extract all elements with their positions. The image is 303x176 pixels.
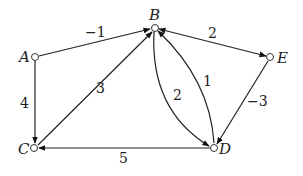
node-e: [267, 54, 274, 61]
weight-d-c: 5: [119, 150, 128, 166]
edge-c-b: [38, 32, 152, 145]
node-label-a: A: [17, 48, 30, 66]
node-d: [211, 145, 218, 152]
node-label-c: C: [18, 140, 30, 158]
weight-e-d: −3: [247, 93, 268, 109]
node-c: [31, 145, 38, 152]
weight-d-b: 1: [203, 73, 212, 89]
node-label-e: E: [276, 49, 288, 67]
node-b: [152, 25, 159, 32]
weight-b-d: 2: [173, 87, 182, 103]
node-label-b: B: [148, 6, 160, 24]
weight-a-c: 4: [20, 95, 29, 111]
weight-e-b: 2: [208, 25, 217, 41]
node-a: [32, 54, 39, 61]
weight-c-b: 3: [96, 80, 105, 96]
graph-diagram: −1 4 3 2 2 1 −3 5 A B E C D: [0, 0, 303, 176]
weight-a-b: −1: [85, 24, 106, 40]
node-label-d: D: [218, 140, 231, 158]
